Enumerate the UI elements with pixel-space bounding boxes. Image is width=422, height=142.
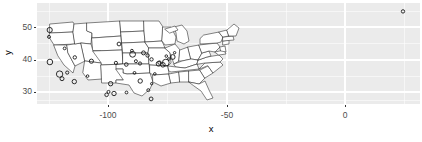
x-axis-title: x	[0, 124, 422, 134]
state-nj	[220, 46, 226, 52]
state-fl	[189, 81, 213, 100]
state-sd	[121, 31, 145, 43]
state-or	[49, 32, 75, 45]
state-nd	[120, 21, 144, 32]
y-tick-label-30: 30	[14, 87, 32, 96]
state-ny	[200, 32, 223, 44]
y-tick-label-40: 40	[14, 55, 32, 64]
x-tick-label-neg100: -100	[88, 111, 128, 120]
panel-canvas	[37, 3, 420, 104]
y-tick-mark-30	[34, 92, 36, 93]
state-ms	[169, 72, 180, 83]
data-point	[66, 71, 69, 74]
state-me	[227, 24, 239, 36]
x-tick-mark-neg50	[227, 105, 228, 107]
data-point	[60, 77, 64, 81]
x-tick-label-neg50: -50	[207, 111, 247, 120]
state-al	[179, 71, 189, 82]
state-mt	[87, 21, 121, 38]
y-tick-mark-50	[34, 27, 36, 28]
state-az	[83, 61, 102, 80]
state-mn	[144, 21, 163, 42]
data-point	[72, 79, 76, 83]
x-tick-mark-zero	[345, 105, 346, 107]
y-axis-title: y	[3, 50, 13, 55]
state-ia	[145, 41, 165, 48]
y-tick-label-50: 50	[14, 23, 32, 32]
state-wa	[50, 22, 74, 33]
x-tick-mark-neg100	[108, 105, 109, 107]
x-tick-label-zero: 0	[325, 111, 365, 120]
plot-root: 50 40 30 y -100 -50 0 x	[0, 0, 422, 142]
y-tick-mark-40	[34, 60, 36, 61]
state-la	[153, 74, 171, 86]
plot-panel	[37, 3, 420, 104]
us-map-layer	[49, 21, 239, 100]
